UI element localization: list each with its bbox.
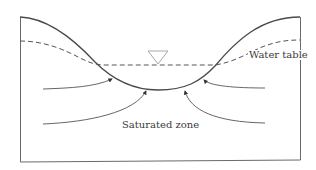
flow-arrow-upper-right <box>204 80 265 88</box>
water-level-triangle-icon <box>148 51 168 64</box>
flow-arrow-upper-left <box>43 79 112 89</box>
saturated-zone-label: Saturated zone <box>122 120 199 130</box>
water-table-label: Water table <box>248 50 309 60</box>
flow-lines <box>43 79 265 124</box>
groundwater-diagram: Water table Saturated zone <box>0 0 316 170</box>
frame-bottom-edge <box>21 160 301 162</box>
diagram-canvas <box>0 0 316 170</box>
